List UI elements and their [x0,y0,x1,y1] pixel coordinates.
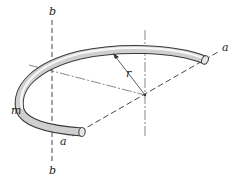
rod-body [19,49,205,132]
curved-rod-diagram: b b a a r m [0,0,240,180]
label-m: m [11,104,21,117]
label-a-left: a [60,135,67,148]
rod-outline [19,49,205,132]
label-r: r [126,67,132,80]
label-a-right: a [222,41,229,54]
label-b-bottom: b [49,164,56,177]
center-point [144,94,146,96]
label-b-top: b [49,5,56,18]
